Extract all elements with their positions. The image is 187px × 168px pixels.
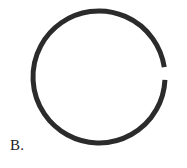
open-ring-path xyxy=(33,11,165,143)
open-ring-icon xyxy=(0,0,187,168)
figure-panel: B. xyxy=(0,0,187,168)
figure-label: B. xyxy=(10,137,24,153)
